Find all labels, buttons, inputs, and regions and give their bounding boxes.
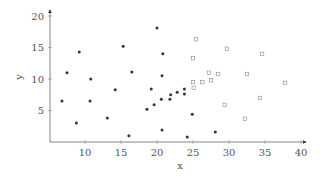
filled-circle-point [89, 100, 92, 103]
open-square-point [258, 96, 261, 99]
filled-circle-point [161, 74, 164, 77]
filled-circle-point [150, 88, 153, 91]
filled-circle-point [183, 93, 186, 96]
filled-circle-point [78, 50, 81, 53]
filled-circle-point [169, 93, 172, 96]
x-tick-label: 15 [115, 147, 128, 158]
filled-circle-point [161, 129, 164, 132]
open-square-point [209, 79, 212, 82]
filled-circle-point [127, 134, 130, 137]
scatter-chart: 10152025303540 5101520 x y [0, 0, 324, 179]
x-axis-label: x [177, 160, 183, 171]
filled-circle-point [161, 52, 164, 55]
x-tick-label: 25 [187, 147, 200, 158]
y-tick-label: 5 [38, 105, 44, 116]
y-ticks: 5101520 [31, 11, 52, 117]
y-tick-label: 10 [31, 74, 44, 85]
open-square-point [201, 80, 204, 83]
open-square-point [191, 80, 194, 83]
filled-circle-point [145, 108, 148, 111]
open-square-point [223, 103, 226, 106]
filled-circle-point [153, 103, 156, 106]
x-tick-label: 30 [223, 147, 236, 158]
open-square-point [192, 86, 195, 89]
open-square-point [283, 81, 286, 84]
open-square-point [194, 38, 197, 41]
open-square-point [225, 47, 228, 50]
x-tick-label: 35 [259, 147, 272, 158]
open-square-point [191, 57, 194, 60]
filled-circle-point [122, 45, 125, 48]
data-points [60, 26, 286, 138]
filled-circle-point [168, 98, 171, 101]
filled-circle-point [114, 88, 117, 91]
filled-circle-point [186, 135, 189, 138]
axes [50, 10, 306, 142]
filled-circle-point [75, 122, 78, 125]
y-tick-label: 20 [31, 11, 44, 22]
open-square-point [243, 117, 246, 120]
filled-circle-point [89, 78, 92, 81]
filled-circle-point [66, 71, 69, 74]
open-square-point [245, 72, 248, 75]
open-square-point [207, 71, 210, 74]
x-tick-label: 40 [295, 147, 308, 158]
y-axis-label: y [13, 74, 24, 81]
y-tick-label: 15 [31, 42, 44, 53]
filled-circle-point [106, 117, 109, 120]
x-ticks: 10152025303540 [79, 140, 308, 158]
filled-circle-point [183, 88, 186, 91]
open-square-point [260, 52, 263, 55]
filled-circle-point [60, 100, 63, 103]
filled-circle-point [176, 91, 179, 94]
x-tick-label: 20 [151, 147, 164, 158]
filled-circle-point [214, 130, 217, 133]
x-tick-label: 10 [79, 147, 92, 158]
filled-circle-point [156, 26, 159, 29]
filled-circle-point [191, 113, 194, 116]
filled-circle-point [160, 98, 163, 101]
open-square-point [217, 72, 220, 75]
filled-circle-point [130, 71, 133, 74]
